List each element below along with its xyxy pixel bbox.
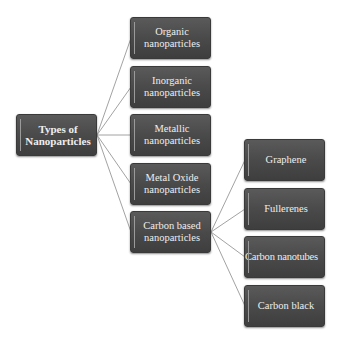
node-carbon-black: Carbon black: [244, 285, 325, 327]
connector-carbon-graphene: [211, 160, 245, 232]
connector-root-metal-oxide: [97, 135, 131, 184]
connector-root-inorganic: [97, 87, 131, 135]
node-carbon-nanotubes: Carbon nanotubes: [244, 236, 325, 278]
node-label: Fullerenes: [264, 203, 308, 215]
node-label: Carbon nanotubes: [245, 251, 318, 263]
connector-carbon-black: [211, 232, 245, 306]
connector-root-organic: [97, 38, 131, 135]
node-metal-oxide-nanoparticles: Metal Oxide nanoparticles: [130, 163, 211, 205]
connector-root-carbon-based: [97, 135, 131, 232]
node-carbon-based-nanoparticles: Carbon based nanoparticles: [130, 211, 211, 253]
node-label: Carbon based nanoparticles: [143, 220, 200, 244]
node-label: Metallic nanoparticles: [144, 123, 200, 147]
node-label: Types of Nanoparticles: [25, 123, 90, 147]
node-label: Inorganic nanoparticles: [144, 75, 200, 99]
node-fullerenes: Fullerenes: [244, 188, 325, 230]
node-label: Organic nanoparticles: [144, 26, 200, 50]
nanoparticle-types-diagram: Types of Nanoparticles Organic nanoparti…: [0, 0, 342, 343]
node-label: Carbon black: [258, 300, 314, 312]
node-types-of-nanoparticles: Types of Nanoparticles: [16, 114, 97, 156]
node-organic-nanoparticles: Organic nanoparticles: [130, 17, 211, 59]
node-label: Graphene: [266, 154, 307, 166]
node-graphene: Graphene: [244, 139, 325, 181]
node-metallic-nanoparticles: Metallic nanoparticles: [130, 114, 211, 156]
node-inorganic-nanoparticles: Inorganic nanoparticles: [130, 66, 211, 108]
connector-carbon-nanotubes: [211, 232, 245, 257]
node-label: Metal Oxide nanoparticles: [144, 172, 200, 196]
